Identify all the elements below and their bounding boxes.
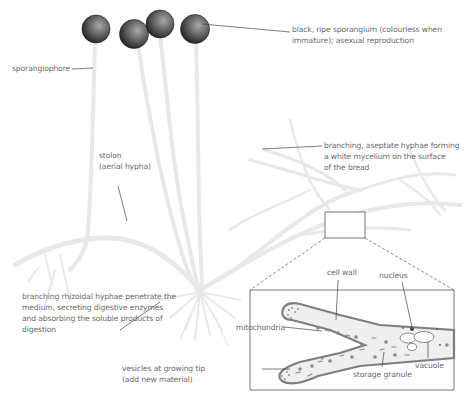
label-stolon: stolon (aerial hypha) [99, 150, 151, 172]
label-mitochondria: mitochondria [236, 322, 285, 333]
label-sporangiophore: sporangiophore [12, 63, 70, 74]
sporangium-4 [181, 15, 210, 44]
sporangia [82, 10, 210, 49]
zoom-source-box [325, 212, 365, 238]
sporangium-1 [82, 15, 110, 43]
label-rhizoidal-hyphae: branching rhizoidal hyphae penetrate the… [22, 291, 176, 335]
label-nucleus: nucleus [379, 270, 408, 281]
label-mycelium: branching, aseptate hyphae forming a whi… [324, 140, 460, 173]
sporangium-3 [146, 10, 174, 38]
rhizopus-diagram: black, ripe sporangium (colourless when … [0, 0, 464, 396]
label-vesicles: vesicles at growing tip (add new materia… [122, 363, 205, 385]
label-vacuole: vacuole [415, 360, 444, 371]
diagram-artwork [0, 0, 464, 396]
label-storage-granule: storage granule [353, 369, 412, 380]
nucleus-shape [410, 327, 414, 331]
label-sporangium: black, ripe sporangium (colourless when … [292, 24, 442, 46]
label-cell-wall: cell wall [327, 267, 357, 278]
sporangium-2 [120, 20, 149, 49]
